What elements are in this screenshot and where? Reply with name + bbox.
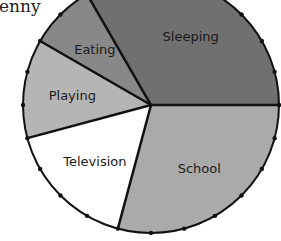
label-eating: Eating xyxy=(74,42,115,57)
label-sleeping: Sleeping xyxy=(163,29,219,44)
label-playing: Playing xyxy=(49,88,96,103)
label-school: School xyxy=(178,161,221,176)
pie-slices xyxy=(23,0,279,233)
pie-chart: SleepingSchoolTelevisionPlayingEating xyxy=(0,0,281,241)
label-television: Television xyxy=(62,154,126,169)
